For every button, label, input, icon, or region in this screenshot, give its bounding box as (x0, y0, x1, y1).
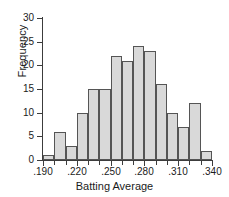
histogram-bar (99, 89, 110, 160)
histogram-bar (54, 132, 65, 160)
y-tick-mark (37, 65, 42, 66)
x-tick-mark-minor (189, 161, 190, 165)
x-tick-mark-minor (66, 161, 67, 165)
y-tick-label: 15 (8, 84, 34, 94)
histogram-bar (133, 46, 144, 160)
histogram-bar (144, 51, 155, 160)
x-tick-mark-minor (54, 161, 55, 165)
y-tick-mark (37, 42, 42, 43)
y-tick-mark (37, 136, 42, 137)
y-tick-mark (37, 160, 42, 161)
x-tick-mark-minor (133, 161, 134, 165)
histogram-bar (88, 89, 99, 160)
plot-area (43, 18, 212, 160)
x-axis-title: Batting Average (0, 180, 229, 193)
x-tick-label: .250 (94, 166, 128, 177)
histogram-bar (66, 146, 77, 160)
x-tick-label: .280 (127, 166, 161, 177)
x-tick-mark-minor (201, 161, 202, 165)
y-tick-label: 0 (8, 155, 34, 165)
x-tick-label: .310 (161, 166, 195, 177)
y-tick-mark (37, 89, 42, 90)
x-tick-label: .190 (26, 166, 60, 177)
x-tick-mark-minor (122, 161, 123, 165)
histogram-bar (111, 56, 122, 160)
x-axis-line (42, 160, 213, 161)
histogram-bar (167, 113, 178, 160)
x-tick-label: .220 (60, 166, 94, 177)
y-tick-label: 5 (8, 131, 34, 141)
histogram-bar (122, 61, 133, 160)
histogram-bar (43, 155, 54, 160)
x-tick-mark-minor (156, 161, 157, 165)
histogram-chart: Frequency 051015202530 .190.220.250.280.… (0, 0, 229, 197)
x-tick-label: .340 (195, 166, 229, 177)
y-tick-label: 10 (8, 108, 34, 118)
histogram-bar (77, 113, 88, 160)
histogram-bar (189, 103, 200, 160)
histogram-bar (178, 127, 189, 160)
y-tick-label: 25 (8, 37, 34, 47)
y-tick-mark (37, 113, 42, 114)
y-tick-label: 30 (8, 13, 34, 23)
histogram-bar (201, 151, 212, 160)
y-tick-label: 20 (8, 60, 34, 70)
histogram-bar (156, 84, 167, 160)
y-tick-mark (37, 18, 42, 19)
x-tick-mark-minor (167, 161, 168, 165)
x-tick-mark-minor (99, 161, 100, 165)
x-tick-mark-minor (88, 161, 89, 165)
